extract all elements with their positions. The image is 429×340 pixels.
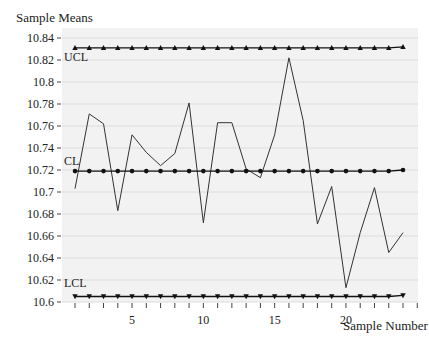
cl-marker [272,169,277,174]
cl-marker [315,169,320,174]
cl-marker [386,169,391,174]
cl-marker [401,168,406,173]
cl-marker [101,169,106,174]
y-tick-label: 10.84 [27,31,54,45]
cl-marker [201,169,206,174]
y-tick-label: 10.8 [33,75,54,89]
y-tick-label: 10.82 [27,53,54,67]
y-tick-label: 10.68 [27,207,54,221]
cl-marker [73,169,78,174]
cl-marker [87,169,92,174]
y-axis-title: Sample Means [16,10,93,26]
cl-marker [115,169,120,174]
cl-marker [144,169,149,174]
x-tick-label: 5 [129,313,135,327]
cl-marker [187,169,192,174]
y-tick-label: 10.6 [33,295,54,309]
x-tick-label: 10 [197,313,209,327]
cl-marker [215,169,220,174]
x-tick-label: 15 [269,313,281,327]
cl-marker [287,169,292,174]
y-tick-label: 10.66 [27,229,54,243]
cl-marker [258,169,263,174]
y-tick-label: 10.74 [27,141,54,155]
cl-marker [301,169,306,174]
y-tick-label: 10.78 [27,97,54,111]
y-tick-label: 10.64 [27,251,54,265]
x-axis-title: Sample Number [343,318,428,334]
cl-marker [372,169,377,174]
lcl-label: LCL [64,276,87,291]
cl-marker [344,169,349,174]
cl-marker [329,169,334,174]
cl-marker [130,169,135,174]
ucl-label: UCL [64,50,88,65]
y-tick-label: 10.76 [27,119,54,133]
cl-marker [173,169,178,174]
cl-marker [230,169,235,174]
cl-marker [158,169,163,174]
y-tick-label: 10.62 [27,273,54,287]
y-tick-label: 10.72 [27,163,54,177]
cl-marker [358,169,363,174]
cl-marker [244,169,249,174]
y-tick-label: 10.7 [33,185,54,199]
cl-label: CL [64,154,79,169]
plot-area [62,28,418,302]
